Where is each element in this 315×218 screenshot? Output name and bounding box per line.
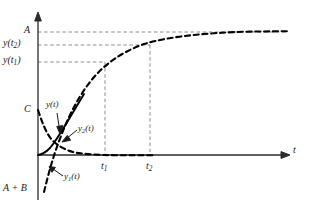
label-curve-y2-end: (t) bbox=[85, 123, 94, 133]
x-axis-arrowhead bbox=[281, 152, 290, 159]
leader-y1-of-t bbox=[53, 169, 63, 176]
label-y-t1-end: ) bbox=[17, 54, 20, 65]
label-curve-y: y(t) bbox=[46, 99, 59, 109]
label-t1-sub: 1 bbox=[104, 165, 108, 173]
curve-y1-dashed bbox=[44, 31, 288, 192]
y-axis-arrowhead bbox=[35, 12, 42, 21]
label-A-plus-B: A + B bbox=[3, 182, 27, 193]
label-y-t1-main: y(t bbox=[3, 54, 14, 65]
label-t2: t2 bbox=[146, 160, 152, 173]
plot-svg bbox=[0, 0, 315, 218]
label-curve-y1: y1(t) bbox=[64, 171, 80, 182]
label-y-t2: y(t2) bbox=[3, 37, 20, 50]
label-curve-y2: y2(t) bbox=[78, 123, 94, 134]
label-t1: t1 bbox=[101, 160, 107, 173]
label-curve-y1-end: (t) bbox=[71, 171, 80, 181]
label-t2-sub: 2 bbox=[149, 165, 153, 173]
label-y-t2-end: ) bbox=[17, 37, 20, 48]
label-A: A bbox=[24, 24, 30, 35]
label-C: C bbox=[24, 103, 31, 114]
figure-container: A y(t2) y(t1) C A + B t1 t2 t y(t) y2(t)… bbox=[0, 0, 315, 218]
label-y-t1: y(t1) bbox=[3, 54, 20, 67]
label-t-axis: t bbox=[293, 144, 296, 155]
label-y-t2-main: y(t bbox=[3, 37, 14, 48]
